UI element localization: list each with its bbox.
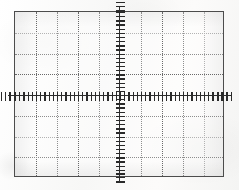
vertical-axis-ticks-overhang-top — [116, 2, 125, 12]
oscilloscope-graticule-figure — [0, 0, 239, 190]
horizontal-axis-ticks-overhang-right — [218, 92, 232, 101]
vertical-axis-ticks — [116, 12, 125, 178]
graticule-plate — [14, 11, 224, 177]
horizontal-axis-ticks-overhang-left — [1, 92, 15, 101]
center-axis-vertical — [119, 7, 120, 183]
vertical-axis-ticks-overhang-bottom — [116, 173, 125, 183]
